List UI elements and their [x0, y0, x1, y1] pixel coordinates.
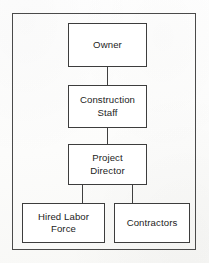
- node-construction-staff: Construction Staff: [68, 85, 147, 128]
- node-project-director: Project Director: [68, 144, 147, 185]
- connector-owner-to-construction-staff: [107, 67, 108, 85]
- node-hired-labor-force: Hired Labor Force: [22, 203, 105, 243]
- connector-project-director-to-contractors: [132, 185, 133, 203]
- connector-project-director-to-hired-labor-force: [82, 185, 83, 203]
- organization-chart-diagram: Owner Construction Staff Project Directo…: [0, 0, 209, 263]
- connector-construction-staff-to-project-director: [107, 128, 108, 144]
- node-owner: Owner: [68, 23, 147, 67]
- node-contractors: Contractors: [114, 203, 190, 243]
